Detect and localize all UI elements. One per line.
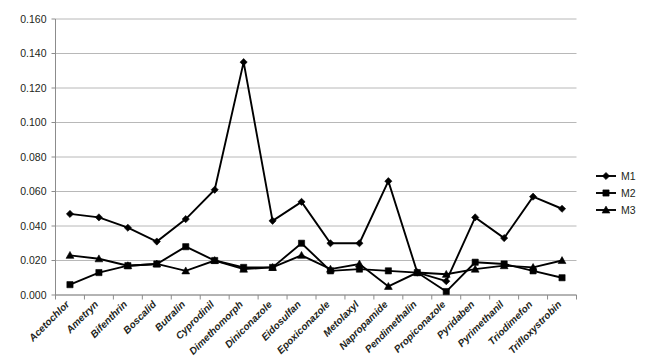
data-point-marker	[559, 275, 565, 281]
y-tick-label: 0.080	[20, 151, 46, 163]
data-point-marker	[298, 240, 304, 246]
data-point-marker	[96, 269, 102, 275]
data-point-marker	[183, 244, 189, 250]
data-point-marker	[67, 282, 73, 288]
legend-label: M3	[621, 204, 636, 216]
y-tick-label: 0.020	[20, 254, 46, 266]
data-point-marker	[443, 288, 449, 294]
y-tick-label: 0.040	[20, 220, 46, 232]
y-axis-tick-labels: 0.0000.0200.0400.0600.0800.1000.1200.140…	[20, 13, 46, 301]
y-tick-label: 0.100	[20, 116, 46, 128]
y-tick-label: 0.160	[20, 13, 46, 25]
data-point-marker	[385, 268, 391, 274]
y-tick-label: 0.060	[20, 185, 46, 197]
line-chart: 0.0000.0200.0400.0600.0800.1000.1200.140…	[0, 0, 651, 363]
data-point-marker	[472, 259, 478, 265]
y-tick-label: 0.000	[20, 289, 46, 301]
chart-container: 0.0000.0200.0400.0600.0800.1000.1200.140…	[0, 0, 651, 363]
y-tick-label: 0.120	[20, 82, 46, 94]
legend-label: M2	[621, 187, 636, 199]
legend-marker-square	[603, 190, 609, 196]
y-tick-label: 0.140	[20, 47, 46, 59]
legend-label: M1	[621, 170, 636, 182]
